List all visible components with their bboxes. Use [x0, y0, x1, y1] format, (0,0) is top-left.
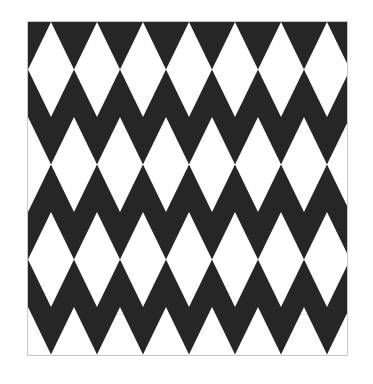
triangle-up [143, 70, 189, 118]
triangle-down [166, 117, 212, 165]
triangle-down [97, 212, 143, 260]
triangle-down [235, 212, 281, 260]
triangle-up [97, 70, 143, 118]
triangle-down [189, 212, 235, 260]
triangle-down [51, 212, 97, 260]
triangle-down [51, 22, 97, 70]
triangle-down [281, 22, 327, 70]
triangle-up [189, 260, 235, 308]
triangle-down [327, 22, 347, 70]
triangle-row-4 [28, 165, 347, 213]
triangle-down [28, 212, 51, 260]
triangle-up [212, 165, 258, 213]
triangle-tessellation [28, 22, 347, 355]
triangle-row-2 [28, 70, 347, 118]
triangle-up [28, 70, 51, 118]
triangle-row-3 [28, 117, 347, 165]
triangle-up [258, 165, 304, 213]
triangle-up [51, 70, 97, 118]
triangle-up [327, 70, 347, 118]
triangle-row-6 [28, 260, 347, 308]
triangle-down [74, 117, 120, 165]
triangle-down [74, 307, 120, 355]
triangle-up [120, 165, 166, 213]
triangle-up [235, 70, 281, 118]
triangle-down [28, 22, 51, 70]
triangle-up [143, 260, 189, 308]
triangle-row-5 [28, 212, 347, 260]
triangle-up [235, 260, 281, 308]
triangle-up [189, 70, 235, 118]
triangle-down [28, 117, 74, 165]
triangle-row-7 [28, 307, 347, 355]
triangle-down [143, 22, 189, 70]
triangle-up [74, 165, 120, 213]
triangle-up [281, 70, 327, 118]
triangle-row-1 [28, 22, 347, 70]
triangle-up [327, 260, 347, 308]
triangle-down [258, 117, 304, 165]
triangle-down [258, 307, 304, 355]
triangle-down [120, 117, 166, 165]
page-canvas [0, 0, 373, 384]
triangle-up [281, 260, 327, 308]
triangle-up [28, 260, 51, 308]
triangle-down [327, 212, 347, 260]
triangle-down [97, 22, 143, 70]
triangle-down [304, 117, 347, 165]
triangle-up [97, 260, 143, 308]
triangle-down [235, 22, 281, 70]
triangle-down [212, 117, 258, 165]
artwork-frame [27, 21, 348, 356]
triangle-down [281, 212, 327, 260]
triangle-down [28, 307, 74, 355]
triangle-down [120, 307, 166, 355]
triangle-down [166, 307, 212, 355]
triangle-down [212, 307, 258, 355]
triangle-down [189, 22, 235, 70]
triangle-down [304, 307, 347, 355]
triangle-down [143, 212, 189, 260]
triangle-up [28, 165, 74, 213]
triangle-up [304, 165, 347, 213]
triangle-up [166, 165, 212, 213]
triangle-up [51, 260, 97, 308]
